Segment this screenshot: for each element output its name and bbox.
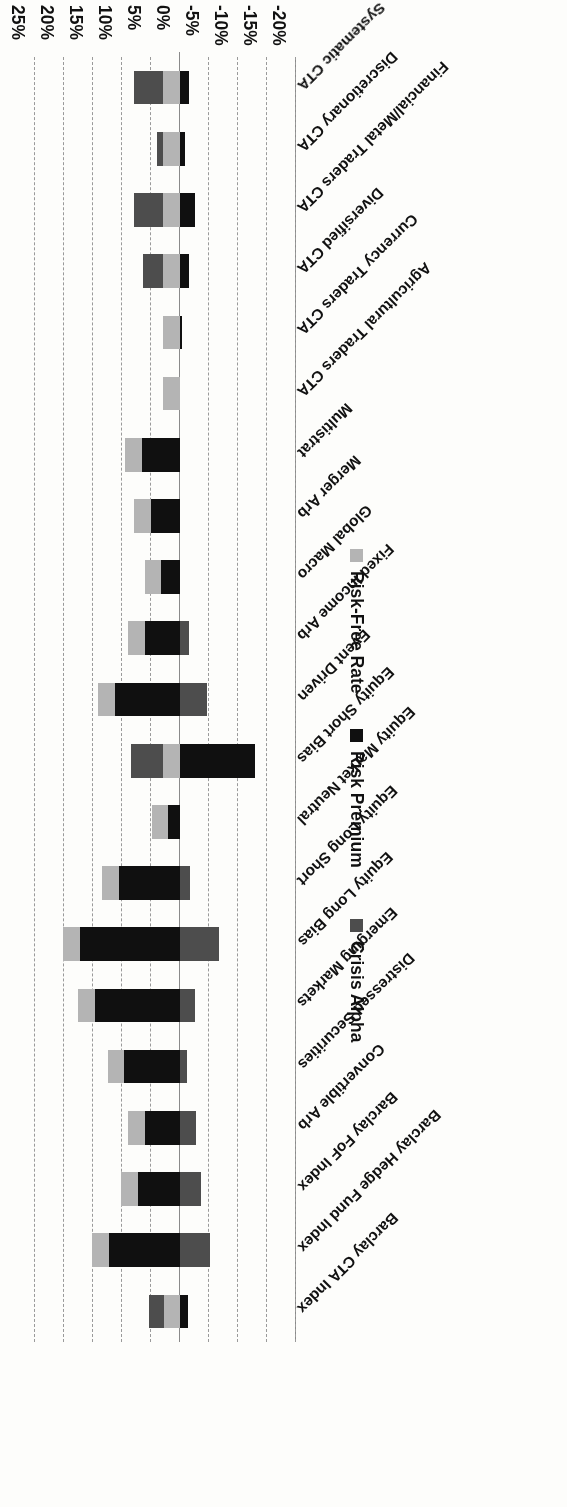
bar-segment [180, 1172, 201, 1206]
legend-label: Risk Premium [346, 751, 367, 868]
bar-segment [125, 438, 142, 472]
bar-row [35, 254, 296, 288]
bar-segment [163, 377, 180, 411]
bar-row [35, 193, 296, 227]
bar-segment [128, 622, 145, 656]
bar-segment [115, 683, 180, 717]
category-label: Barclay CTA Index [294, 1209, 402, 1317]
x-tick-label: -15% [239, 5, 260, 46]
bar-row [35, 71, 296, 105]
bar-segment [128, 1111, 145, 1145]
stacked-bar-chart-figure: 25%20%15%10%5%0%-5%-10%-15%-20% Barclay … [0, 0, 567, 1507]
bar-segment [180, 1050, 187, 1084]
bar-segment [180, 683, 207, 717]
legend-item[interactable]: Risk Premium [346, 729, 367, 868]
legend-label: Risk-Free Rate [346, 571, 367, 694]
bar-row [35, 1111, 296, 1145]
bar-row [35, 744, 296, 778]
bar-row [35, 316, 296, 350]
bar-segment [98, 683, 115, 717]
x-tick-label: 15% [65, 5, 86, 40]
bar-segment [102, 866, 119, 900]
square-swatch-icon [350, 729, 363, 742]
bar-segment [78, 989, 95, 1023]
bar-segment [180, 1111, 196, 1145]
bar-segment [80, 927, 180, 961]
bar-segment [119, 866, 180, 900]
bar-segment [138, 1172, 180, 1206]
bar-segment [124, 1050, 180, 1084]
bar-segment [163, 193, 180, 227]
bar-segment [157, 132, 163, 166]
bar-segment [180, 254, 189, 288]
bar-segment [163, 132, 180, 166]
bar-segment [180, 316, 182, 350]
bar-row [35, 1172, 296, 1206]
bar-segment [143, 254, 163, 288]
bar-segment [151, 499, 180, 533]
bar-row [35, 1295, 296, 1329]
bar-row [35, 560, 296, 594]
bar-segment [121, 1172, 138, 1206]
x-tick-label: 25% [7, 5, 28, 40]
bar-segment [142, 438, 180, 472]
legend-item[interactable]: Risk-Free Rate [346, 549, 367, 694]
bar-segment [163, 254, 180, 288]
x-tick-label: -5% [181, 5, 202, 36]
bar-segment [109, 1233, 180, 1267]
bar-segment [163, 316, 180, 350]
bar-segment [161, 560, 180, 594]
bar-segment [145, 560, 162, 594]
bar-segment [180, 132, 185, 166]
bar-segment [92, 1233, 109, 1267]
bar-segment [164, 1295, 180, 1329]
x-tick-label: 20% [36, 5, 57, 40]
square-swatch-icon [350, 919, 363, 932]
bar-row [35, 499, 296, 533]
x-tick-label: 10% [94, 5, 115, 40]
x-axis-tick-labels: 25%20%15%10%5%0%-5%-10%-15%-20% [35, 0, 296, 55]
bar-segment [163, 71, 180, 105]
bar-segment [149, 1295, 164, 1329]
bar-row [35, 927, 296, 961]
bar-segment [180, 1233, 210, 1267]
bar-row [35, 1050, 296, 1084]
bar-segment [145, 622, 180, 656]
legend-label: Crisis Alpha [346, 941, 367, 1042]
bar-segment [145, 1111, 180, 1145]
x-tick-label: -20% [268, 5, 289, 46]
bar-segment [134, 71, 163, 105]
bar-segment [163, 744, 180, 778]
bar-segment [180, 71, 189, 105]
bar-segment [180, 622, 189, 656]
bar-row [35, 438, 296, 472]
category-label: Multistrat [294, 399, 356, 461]
bar-segment [180, 989, 195, 1023]
bar-row [35, 805, 296, 839]
bar-segment [63, 927, 80, 961]
x-tick-label: 5% [123, 5, 144, 30]
bar-segment [134, 499, 151, 533]
x-tick-label: -10% [210, 5, 231, 46]
bar-row [35, 1233, 296, 1267]
bar-row [35, 622, 296, 656]
bar-segment [180, 1295, 188, 1329]
bar-segment [180, 744, 255, 778]
x-tick-label: 0% [152, 5, 173, 30]
bar-segment [180, 927, 219, 961]
bar-segment [134, 193, 163, 227]
figure-rotation-wrapper: 25%20%15%10%5%0%-5%-10%-15%-20% Barclay … [0, 0, 567, 1507]
bar-row [35, 132, 296, 166]
bar-segment [152, 805, 169, 839]
bar-segment [131, 744, 163, 778]
category-label: Currency Traders CTA [294, 210, 422, 338]
bar-segment [108, 1050, 125, 1084]
bar-segment [95, 989, 180, 1023]
bar-row [35, 377, 296, 411]
square-swatch-icon [350, 549, 363, 562]
bar-row [35, 989, 296, 1023]
bar-series-container [35, 57, 296, 1342]
bar-segment [168, 805, 180, 839]
bar-segment [180, 193, 195, 227]
legend-item[interactable]: Crisis Alpha [346, 919, 367, 1042]
